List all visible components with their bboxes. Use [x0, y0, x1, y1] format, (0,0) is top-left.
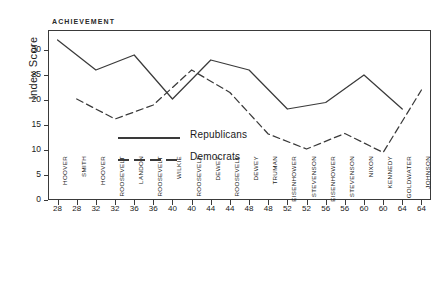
data-lines-layer — [48, 30, 431, 200]
series-line-democrats — [77, 70, 422, 153]
y-tick-label: 5 — [19, 169, 41, 179]
legend-label: Democrats — [190, 151, 240, 162]
y-tick-label: 0 — [19, 194, 41, 204]
y-tick-label: 10 — [19, 144, 41, 154]
y-tick-label: 20 — [19, 94, 41, 104]
y-tick-mark — [44, 200, 48, 201]
legend-swatch-dashed — [118, 159, 180, 161]
y-tick-label: 15 — [19, 119, 41, 129]
y-tick-label: 25 — [19, 69, 41, 79]
legend-swatch-solid — [118, 137, 180, 139]
chart-title: ACHIEVEMENT — [52, 18, 115, 25]
legend-label: Republicans — [190, 129, 247, 140]
y-axis-title: Index Score — [27, 13, 39, 123]
chart-container: ACHIEVEMENT Index Score 051015202530 282… — [0, 0, 437, 287]
series-line-republicans — [58, 40, 403, 109]
y-tick-label: 30 — [19, 44, 41, 54]
